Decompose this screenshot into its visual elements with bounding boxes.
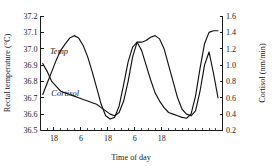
series-label-temp: Temp xyxy=(50,46,68,56)
x-tick-label: 18 xyxy=(158,134,166,143)
chart-plot-area: 36.536.636.736.836.937.037.137.2 0.20.40… xyxy=(0,0,274,166)
right-tick-label: 1.4 xyxy=(226,28,236,37)
left-axis-tick-labels: 36.536.636.736.836.937.037.137.2 xyxy=(24,12,38,136)
series-label-cortisol: Cortisol xyxy=(51,88,80,98)
right-tick-label: 0.8 xyxy=(226,77,236,86)
left-tick-label: 36.6 xyxy=(24,110,38,119)
axis-lines xyxy=(41,16,223,131)
right-tick-label: 1.2 xyxy=(226,45,236,54)
y-axis-title-left: Rectal temperature (°C) xyxy=(3,34,12,113)
x-axis-tick-labels: 18618618 xyxy=(50,134,166,143)
left-tick-label: 36.9 xyxy=(24,61,38,70)
right-tick-label: 0.4 xyxy=(226,110,236,119)
left-tick-label: 36.7 xyxy=(24,94,38,103)
left-tick-label: 36.5 xyxy=(24,126,38,135)
right-tick-label: 0.2 xyxy=(226,126,236,135)
right-tick-label: 1.0 xyxy=(226,61,236,70)
right-tick-label: 1.6 xyxy=(226,12,236,21)
x-axis-ticks xyxy=(41,127,223,131)
left-tick-label: 37.2 xyxy=(24,12,38,21)
left-tick-label: 37.0 xyxy=(24,45,38,54)
left-tick-label: 36.8 xyxy=(24,77,38,86)
x-tick-label: 18 xyxy=(104,134,112,143)
chart-figure: 36.536.636.736.836.937.037.137.2 0.20.40… xyxy=(0,0,274,166)
x-tick-label: 6 xyxy=(79,134,83,143)
x-tick-label: 6 xyxy=(133,134,137,143)
data-series-lines xyxy=(43,31,218,119)
right-tick-label: 0.6 xyxy=(226,94,236,103)
left-tick-label: 37.1 xyxy=(24,28,38,37)
series-line-cortisol xyxy=(43,31,218,119)
x-tick-label: 18 xyxy=(50,134,58,143)
series-line-temp xyxy=(43,36,218,116)
series-inline-labels: TempCortisol xyxy=(50,46,80,99)
right-axis-tick-labels: 0.20.40.60.81.01.21.41.6 xyxy=(226,12,236,136)
x-axis-title: Time of day xyxy=(111,153,152,162)
y-axis-title-right: Cortisol (nm/min) xyxy=(258,43,267,103)
